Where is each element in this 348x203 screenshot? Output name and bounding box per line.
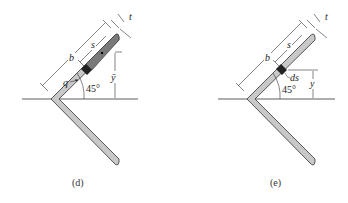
- angle-section: [247, 34, 315, 165]
- label-s: s: [91, 39, 95, 50]
- caption-e: (e): [270, 177, 281, 189]
- panel-e: b s t ds y 45° (e): [218, 11, 335, 189]
- centroid-dot: [101, 52, 104, 55]
- label-angle: 45°: [282, 84, 296, 95]
- dimension-t-line: [111, 20, 119, 28]
- label-angle: 45°: [86, 83, 100, 94]
- label-ds: ds: [290, 72, 299, 83]
- label-b: b: [69, 52, 74, 63]
- label-b: b: [265, 52, 270, 63]
- label-t: t: [325, 11, 328, 22]
- angle-section: [51, 34, 119, 165]
- label-ybar: ȳ: [110, 72, 116, 83]
- figure-canvas: b s t q ȳ 45° (d) b: [0, 0, 348, 203]
- panel-d: b s t q ȳ 45° (d): [22, 11, 138, 189]
- label-s: s: [287, 39, 291, 50]
- label-q: q: [63, 77, 68, 88]
- label-t: t: [129, 11, 132, 22]
- label-y: y: [309, 78, 315, 89]
- caption-d: (d): [72, 177, 84, 189]
